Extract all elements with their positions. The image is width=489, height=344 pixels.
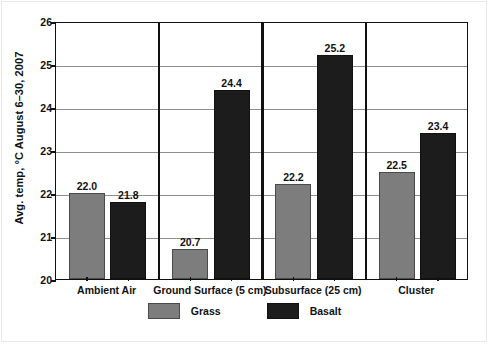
y-axis-tick-mark — [51, 237, 56, 238]
y-axis-tick-mark — [51, 151, 56, 152]
legend-item-grass[interactable]: Grass — [148, 303, 221, 319]
legend-item-basalt[interactable]: Basalt — [267, 303, 342, 319]
x-axis-tick-mark — [128, 277, 129, 281]
bar-chart-figure: Avg. temp, °C August 6–30, 2007 20212223… — [0, 0, 489, 344]
plot-inner: 22.021.820.724.422.225.222.523.4 — [56, 23, 467, 279]
bar-value-label: 24.4 — [221, 77, 241, 89]
legend-swatch-basalt — [267, 303, 299, 319]
x-axis-tick-mark — [86, 277, 87, 281]
y-axis-tick-mark — [51, 194, 56, 195]
bar-value-label: 23.4 — [428, 120, 448, 132]
bar-value-label: 22.2 — [283, 171, 303, 183]
y-axis-tick-label: 20 — [30, 274, 52, 286]
bar-value-label: 25.2 — [325, 42, 345, 54]
group-divider — [261, 23, 263, 279]
bar-basalt-0[interactable] — [110, 202, 146, 279]
group-divider — [158, 23, 160, 279]
chart-legend: GrassBasalt — [0, 303, 489, 319]
bar-basalt-3[interactable] — [420, 133, 456, 279]
legend-label: Grass — [191, 305, 221, 317]
bar-grass-0[interactable] — [69, 193, 105, 279]
y-axis-tick-mark — [51, 22, 56, 23]
y-axis-tick-label: 25 — [30, 59, 52, 71]
x-axis-tick-mark — [190, 277, 191, 281]
x-axis-tick-mark — [231, 277, 232, 281]
bar-grass-3[interactable] — [379, 172, 415, 280]
x-axis-tick-mark — [437, 277, 438, 281]
bar-value-label: 20.7 — [180, 236, 200, 248]
category-label: Cluster — [398, 284, 434, 296]
legend-label: Basalt — [310, 305, 342, 317]
bar-grass-1[interactable] — [172, 249, 208, 279]
category-label: Ground Surface (5 cm) — [153, 284, 266, 296]
y-axis-tick-label: 26 — [30, 16, 52, 28]
plot-area: 22.021.820.724.422.225.222.523.4 — [55, 22, 468, 280]
y-axis-tick-mark — [51, 108, 56, 109]
category-label: Ambient Air — [77, 284, 136, 296]
y-axis-tick-label: 23 — [30, 145, 52, 157]
y-axis-tick-labels: 20212223242526 — [26, 0, 52, 344]
x-axis-tick-mark — [334, 277, 335, 281]
category-label: Subsurface (25 cm) — [265, 284, 362, 296]
legend-swatch-grass — [148, 303, 180, 319]
bar-basalt-2[interactable] — [317, 55, 353, 279]
x-axis-tick-mark — [293, 277, 294, 281]
x-axis-tick-mark — [396, 277, 397, 281]
y-axis-tick-label: 21 — [30, 231, 52, 243]
bar-value-label: 22.5 — [387, 159, 407, 171]
y-axis-title: Avg. temp, °C August 6–30, 2007 — [13, 7, 25, 269]
y-axis-tick-mark — [51, 280, 56, 281]
bar-value-label: 22.0 — [77, 180, 97, 192]
bar-grass-2[interactable] — [275, 184, 311, 279]
y-axis-tick-mark — [51, 65, 56, 66]
y-axis-title-container: Avg. temp, °C August 6–30, 2007 — [0, 0, 26, 290]
bar-value-label: 21.8 — [118, 189, 138, 201]
y-axis-tick-label: 22 — [30, 188, 52, 200]
bar-basalt-1[interactable] — [214, 90, 250, 279]
y-axis-tick-label: 24 — [30, 102, 52, 114]
group-divider — [365, 23, 367, 279]
